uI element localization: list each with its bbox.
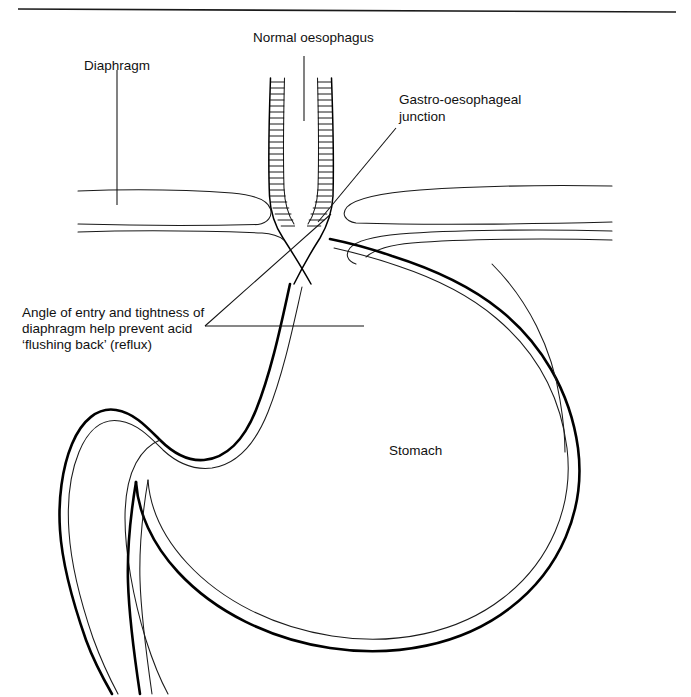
label-gastro-oesophageal-junction-line1: Gastro-oesophageal bbox=[399, 92, 521, 107]
label-diaphragm: Diaphragm bbox=[84, 58, 150, 73]
label-gastro-oesophageal-junction-line2: junction bbox=[398, 109, 446, 124]
label-stomach: Stomach bbox=[389, 443, 442, 458]
label-angle-line3: ‘flushing back’ (reflux) bbox=[22, 337, 152, 352]
label-normal-oesophagus: Normal oesophagus bbox=[253, 30, 374, 45]
label-angle-line2: diaphragm help prevent acid bbox=[22, 321, 192, 336]
label-angle-line1: Angle of entry and tightness of bbox=[22, 305, 205, 320]
anatomy-figure: Normal oesophagus Diaphragm Gastro-oesop… bbox=[0, 0, 691, 697]
gastro-oesophageal-anatomy-svg: Normal oesophagus Diaphragm Gastro-oesop… bbox=[0, 0, 691, 697]
